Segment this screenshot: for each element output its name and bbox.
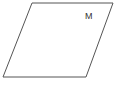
parallelogram-diagram: M [0, 0, 114, 87]
parallelogram-shape [3, 3, 113, 77]
vertex-label-m: M [85, 11, 93, 21]
